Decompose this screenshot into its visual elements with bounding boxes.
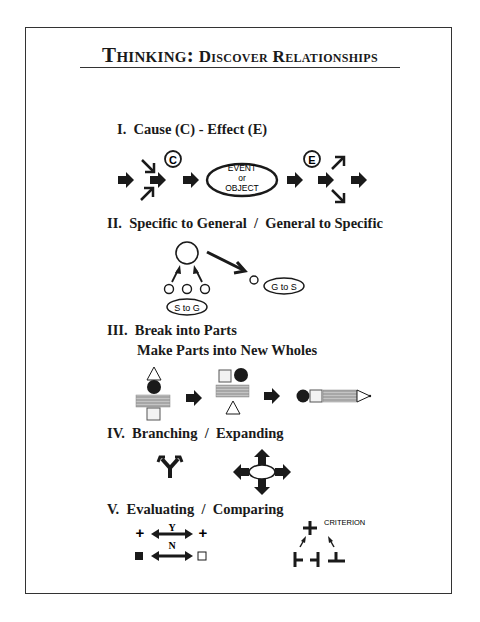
arrow-right-icon [275,464,291,480]
arrow-left-icon [233,464,249,480]
triangle-part [147,367,161,380]
bar-part [136,395,170,407]
arrow-down-icon [254,479,270,495]
branching-expanding-diagram [158,449,291,495]
pencil-body [323,390,357,402]
partial-cross-bottom-icon [328,552,345,561]
arrow-right-icon [183,172,199,188]
pencil-tip [357,390,370,402]
square-part [147,408,160,420]
partial-cross-left-icon [295,552,303,567]
pencil-ferrule [310,390,322,402]
specific-circle [201,285,210,294]
no-label: N [168,540,176,551]
circle-part [234,368,248,382]
arrow-up-icon [193,265,202,282]
bar-part [216,385,249,397]
arrow-right-icon [318,172,334,188]
plus-icon: + [136,524,145,541]
cause-label: C [169,154,177,166]
arrow-right-icon [264,388,280,404]
event-label-line1: EVENT [228,163,256,173]
filled-square-icon [135,552,143,560]
double-arrow-icon [151,551,193,561]
diag-arrow-up-right-icon [141,188,153,200]
parts-wholes-diagram [136,367,371,420]
criterion-cross-icon [303,521,317,535]
arrow-right-icon [118,172,134,188]
general-small-circle [250,276,258,284]
diagram-canvas: C EVENT or OBJECT E S to G [0,0,480,622]
g-to-s-label: G to S [271,282,297,292]
event-label-line3: OBJECT [225,183,259,193]
specific-general-diagram: S to G G to S [165,242,305,315]
plus-icon: + [199,524,208,541]
s-to-g-label: S to G [174,303,200,313]
event-label-line2: or [238,173,246,183]
diag-arrow-up-right-icon [332,157,344,169]
diag-arrow-down-right-icon [332,190,344,202]
yes-label: Y [168,522,176,533]
arrow-up-icon [254,449,270,465]
arrow-right-icon [150,172,166,188]
evaluating-comparing-diagram: + Y + N CRITERION [135,518,365,567]
center-ellipse [249,465,275,479]
cause-effect-diagram: C EVENT or OBJECT E [118,151,367,202]
criterion-label: CRITERION [324,518,365,527]
arrow-up-right-icon [300,536,306,547]
empty-square-icon [198,552,206,560]
square-part [219,370,231,382]
pencil-eraser [297,390,310,403]
triangle-part [226,401,240,414]
arrow-up-icon [172,265,181,282]
circle-part [147,380,161,394]
effect-label: E [308,154,315,166]
branch-y-icon [158,457,182,478]
specific-circle [165,285,174,294]
diag-arrow-down-right-icon [142,160,154,172]
arrow-down-right-icon [207,252,245,273]
arrow-right-icon [287,172,303,188]
arrow-right-icon [351,172,367,188]
specific-circle [183,285,192,294]
arrow-up-left-icon [328,536,334,547]
partial-cross-right-icon [310,552,318,567]
arrow-right-icon [186,390,202,406]
general-circle [176,242,198,264]
